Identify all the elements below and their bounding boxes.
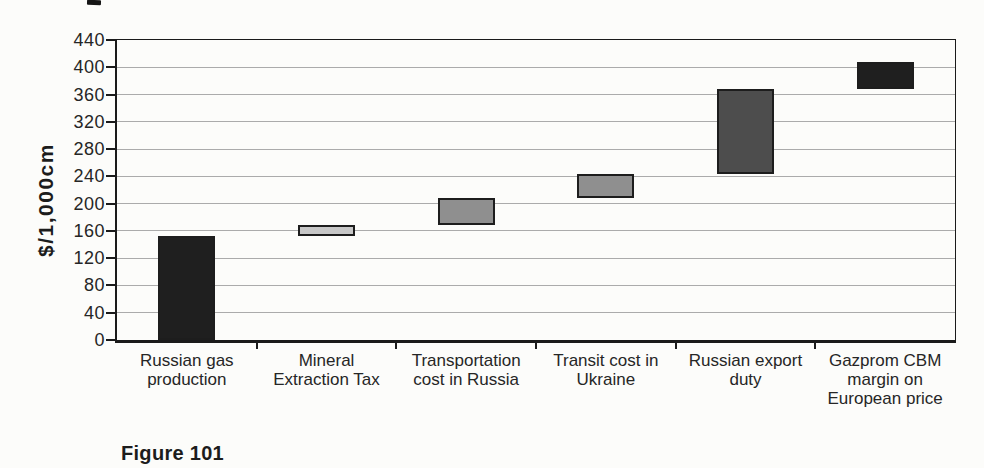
gridline-y-240 [117,176,955,177]
y-tick-label-120: 120 [33,248,105,269]
gridline-y-360 [117,94,955,95]
y-tick-label-280: 280 [33,139,105,160]
y-tick-mark-280 [106,148,115,150]
y-tick-label-360: 360 [33,84,105,105]
x-category-label-6: Gazprom CBM margin on European price [803,351,967,408]
y-tick-label-200: 200 [33,193,105,214]
y-tick-mark-120 [106,257,115,259]
y-tick-mark-160 [106,230,115,232]
y-tick-mark-400 [106,66,115,68]
figure-caption: Figure 101 [121,442,224,465]
gridline-y-120 [117,258,955,259]
waterfall-bar-4 [577,174,634,199]
x-tick-mark-4 [675,342,677,349]
y-tick-mark-320 [106,121,115,123]
y-tick-mark-40 [106,312,115,314]
waterfall-bar-1 [158,236,215,340]
gridline-y-160 [117,230,955,231]
gridline-y-280 [117,149,955,150]
waterfall-bar-3 [438,198,495,225]
gridline-y-200 [117,203,955,204]
y-tick-mark-440 [106,39,115,41]
waterfall-bar-6 [857,62,914,89]
y-tick-label-160: 160 [33,220,105,241]
chart-plot-area [115,39,956,343]
x-tick-mark-3 [535,342,537,349]
gridline-y-320 [117,121,955,122]
y-tick-mark-200 [106,203,115,205]
scan-artifact-mark [87,0,101,5]
y-tick-label-320: 320 [33,111,105,132]
y-tick-label-240: 240 [33,166,105,187]
y-tick-label-80: 80 [33,275,105,296]
x-tick-mark-1 [256,342,258,349]
y-tick-label-400: 400 [33,57,105,78]
waterfall-bar-2 [298,225,355,236]
y-tick-label-40: 40 [33,302,105,323]
x-tick-mark-2 [395,342,397,349]
gridline-y-40 [117,312,955,313]
y-tick-mark-240 [106,175,115,177]
gridline-y-400 [117,67,955,68]
y-tick-label-0: 0 [33,330,105,351]
y-tick-mark-0 [106,339,115,341]
x-tick-mark-5 [814,342,816,349]
y-tick-mark-360 [106,94,115,96]
scanned-figure-page: { "page": { "background": "#fcfcfa" }, "… [0,0,984,468]
waterfall-bar-5 [717,89,774,174]
y-tick-mark-80 [106,284,115,286]
y-tick-label-440: 440 [33,30,105,51]
gridline-y-80 [117,285,955,286]
